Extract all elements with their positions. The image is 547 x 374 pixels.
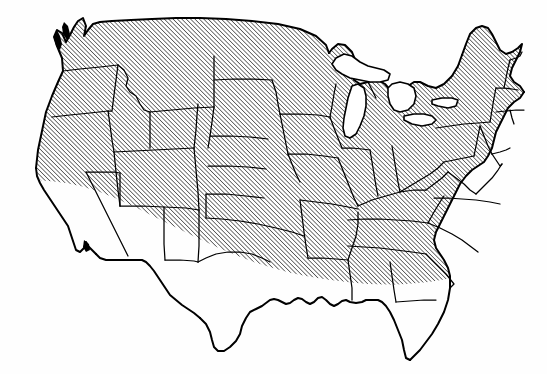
southern-border [96,254,200,318]
hatched-region-group [0,0,547,374]
us-map-graphic [0,0,547,374]
map-figure [0,0,547,374]
gulf-coast [200,297,410,360]
hatch-area [0,0,547,374]
